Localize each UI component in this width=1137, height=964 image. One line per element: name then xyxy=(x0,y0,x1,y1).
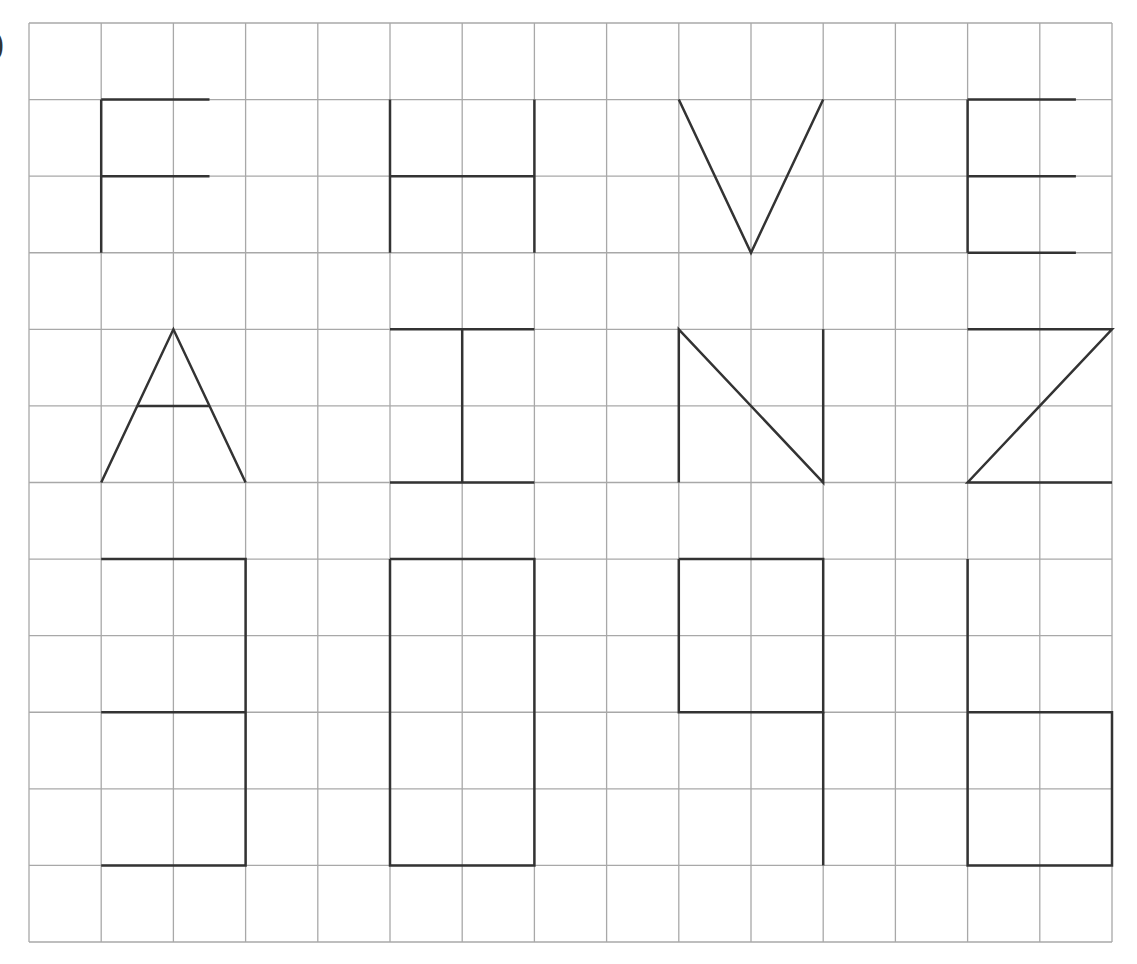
letter-E xyxy=(968,100,1076,253)
grid-drawing xyxy=(0,0,1137,964)
grid-lines xyxy=(29,23,1112,942)
letter-F xyxy=(101,100,209,253)
